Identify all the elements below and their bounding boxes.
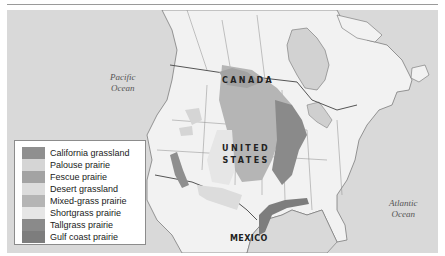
legend-label: California grassland [50, 148, 130, 158]
swatch-tallgrass [22, 219, 45, 231]
united-states-label: UNITED STATES [222, 143, 270, 167]
atlantic-ocean-label: Atlantic Ocean [389, 198, 418, 220]
legend-label: Palouse prairie [50, 160, 110, 170]
atlantic-label-line1: Atlantic [389, 198, 418, 209]
united-label-line1: UNITED [222, 143, 270, 155]
legend-item-fescue: Fescue prairie [22, 171, 107, 183]
legend-item-mixed-grass: Mixed-grass prairie [22, 195, 127, 207]
swatch-palouse [22, 159, 45, 171]
swatch-mixed-grass [22, 195, 45, 207]
legend-item-california: California grassland [22, 147, 130, 159]
legend-item-palouse: Palouse prairie [22, 159, 110, 171]
swatch-gulf-coast [22, 231, 45, 243]
mexico-label: MEXICO [230, 233, 268, 245]
pacific-ocean-label: Pacific Ocean [110, 72, 136, 94]
swatch-fescue [22, 171, 45, 183]
atlantic-label-line2: Ocean [389, 209, 418, 220]
pacific-label-line2: Ocean [110, 83, 136, 94]
legend-label: Fescue prairie [50, 172, 107, 182]
pacific-label-line1: Pacific [110, 72, 136, 83]
legend-label: Shortgrass prairie [50, 208, 121, 218]
legend-item-desert: Desert grassland [22, 183, 118, 195]
legend-label: Tallgrass prairie [50, 220, 113, 230]
map-legend: California grassland Palouse prairie Fes… [14, 140, 146, 245]
legend-label: Desert grassland [50, 184, 118, 194]
legend-item-shortgrass: Shortgrass prairie [22, 207, 121, 219]
top-rule [7, 4, 438, 5]
swatch-california [22, 147, 45, 159]
legend-label: Mixed-grass prairie [50, 196, 127, 206]
swatch-desert [22, 183, 45, 195]
newfoundland [411, 65, 429, 82]
states-label-line2: STATES [222, 155, 270, 167]
canada-label: CANADA [222, 75, 274, 87]
legend-label: Gulf coast prairie [50, 232, 118, 242]
swatch-shortgrass [22, 207, 45, 219]
legend-item-tallgrass: Tallgrass prairie [22, 219, 113, 231]
legend-item-gulf-coast: Gulf coast prairie [22, 231, 118, 243]
